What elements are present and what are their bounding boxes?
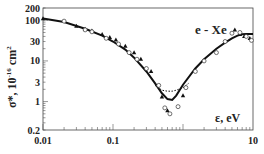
circle-marker [202,59,206,63]
triangle-marker [139,57,143,61]
y-tick-label: 30 [30,36,40,47]
circle-marker [117,42,121,46]
circle-marker [223,40,227,44]
circle-marker [238,30,242,34]
y-tick-labels: 2001003010310.2 [25,3,40,136]
triangle-marker [233,27,237,31]
circle-marker [168,112,172,116]
x-tick-label: 0.1 [107,135,120,146]
y-tick-label: 1 [35,96,40,107]
circle-marker [249,38,253,42]
chart-title: e - Xe [195,22,227,37]
circle-marker [184,86,188,90]
circle-marker [83,28,87,32]
cross-section-chart: 2001003010310.2 0.010.110 e - Xe ε, eV σ… [0,0,264,154]
y-tick-label: 200 [25,3,40,14]
triangle-marker [181,93,185,97]
y-tick-label: 10 [30,55,40,66]
circle-marker [193,69,197,73]
circle-marker [157,83,161,87]
x-axis-label: ε, eV [215,111,240,125]
circle-marker [104,36,108,40]
triangle-marker [123,44,127,48]
circle-marker [144,67,148,71]
circle-marker [62,19,66,23]
circle-marker [244,34,248,38]
y-tick-label: 3 [35,77,40,88]
y-tick-label: 0.2 [28,125,41,136]
x-tick-labels: 0.010.110 [34,135,258,146]
x-tick-label: 0.01 [34,135,52,146]
y-tick-label: 100 [25,15,40,26]
circle-marker [163,106,167,110]
circle-marker [214,51,218,55]
triangle-marker [114,37,118,41]
circle-marker [230,31,234,35]
triangle-marker [132,50,136,54]
x-tick-label: 10 [248,135,258,146]
circle-marker [90,30,94,34]
svg-text:σ*, 10-16 cm2: σ*, 10-16 cm2 [5,46,19,108]
triangle-marker [149,69,153,73]
circle-marker [127,51,131,55]
y-axis-label: σ*, 10-16 cm2 [5,46,19,108]
circle-marker [135,57,139,61]
circle-marker [176,105,180,109]
